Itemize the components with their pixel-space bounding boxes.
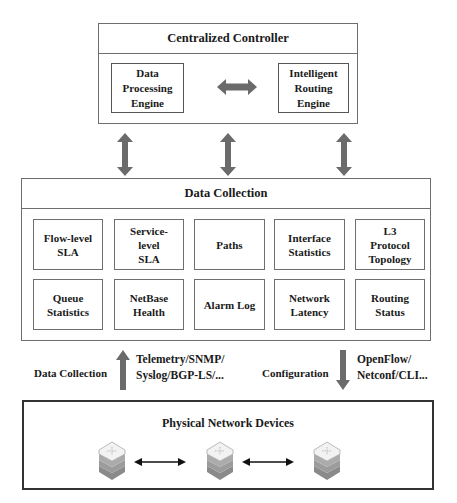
centralized-controller-title: Centralized Controller bbox=[99, 24, 357, 54]
metric-label: L3 Protocol Topology bbox=[368, 224, 411, 266]
metric-label: Interface Statistics bbox=[288, 231, 331, 259]
metric-label: Routing Status bbox=[371, 291, 409, 319]
double-headed-arrow-icon bbox=[242, 457, 294, 467]
metric-label: Flow-level SLA bbox=[44, 231, 92, 259]
intelligent-routing-engine: Intelligent Routing Engine bbox=[278, 63, 349, 113]
bidirectional-vertical-arrow-icon bbox=[220, 133, 236, 176]
bidirectional-vertical-arrow-icon bbox=[117, 133, 133, 176]
metric-paths: Paths bbox=[194, 219, 265, 270]
physical-network-devices-title: Physical Network Devices bbox=[24, 416, 432, 431]
router-stack-icon bbox=[314, 442, 340, 480]
centralized-controller-box: Centralized Controller Data Processing E… bbox=[98, 23, 358, 124]
data-processing-engine: Data Processing Engine bbox=[111, 63, 184, 113]
router-stack-icon bbox=[207, 442, 233, 480]
upstream-protocols-label: Telemetry/SNMP/ Syslog/BGP-LS/... bbox=[136, 351, 224, 383]
metric-alarm-log: Alarm Log bbox=[194, 279, 265, 330]
metric-queue-statistics: Queue Statistics bbox=[33, 279, 103, 330]
data-collection-title-text: Data Collection bbox=[185, 186, 268, 201]
metric-label: Queue Statistics bbox=[47, 291, 89, 319]
configuration-direction-label: Configuration bbox=[262, 366, 329, 380]
bidirectional-vertical-arrow-icon bbox=[336, 133, 352, 176]
metric-label: Alarm Log bbox=[204, 298, 256, 312]
metric-routing-status: Routing Status bbox=[355, 279, 425, 330]
downstream-protocols-label: OpenFlow/ Netconf/CLI... bbox=[357, 351, 428, 383]
metric-l3-protocol-topology: L3 Protocol Topology bbox=[355, 219, 425, 270]
data-collection-title: Data Collection bbox=[22, 179, 430, 209]
metric-network-latency: Network Latency bbox=[274, 279, 345, 330]
data-collection-box: Data Collection Flow-level SLA Service- … bbox=[21, 178, 431, 341]
data-collection-direction-label: Data Collection bbox=[34, 366, 107, 380]
down-arrow-icon bbox=[336, 350, 350, 390]
router-stack-icon bbox=[99, 442, 125, 480]
metric-label: NetBase Health bbox=[130, 291, 169, 319]
metric-interface-statistics: Interface Statistics bbox=[274, 219, 345, 270]
metric-service-level-sla: Service- level SLA bbox=[114, 219, 184, 270]
metric-label: Paths bbox=[216, 238, 242, 252]
bidirectional-horizontal-arrow-icon bbox=[217, 79, 257, 95]
data-processing-engine-label: Data Processing Engine bbox=[123, 66, 173, 111]
metric-label: Service- level SLA bbox=[130, 224, 168, 266]
controller-title-text: Centralized Controller bbox=[167, 31, 289, 46]
metric-netbase-health: NetBase Health bbox=[114, 279, 184, 330]
double-headed-arrow-icon bbox=[134, 457, 186, 467]
physical-network-devices-box: Physical Network Devices bbox=[22, 400, 434, 490]
intelligent-routing-engine-label: Intelligent Routing Engine bbox=[289, 66, 337, 111]
metric-label: Network Latency bbox=[289, 291, 330, 319]
up-arrow-icon bbox=[116, 350, 130, 390]
metric-flow-level-sla: Flow-level SLA bbox=[33, 219, 103, 270]
